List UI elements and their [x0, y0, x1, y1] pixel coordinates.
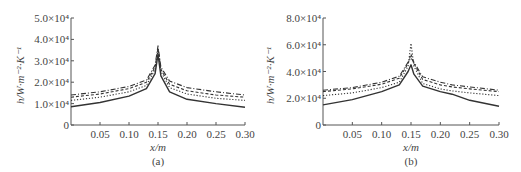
x-tick-label: 0.20 — [177, 128, 197, 140]
x-tick-label: 0.25 — [460, 128, 480, 140]
x-tick-label: 0.10 — [119, 128, 139, 140]
x-axis-label: x/m — [402, 141, 419, 153]
y-tick-label: 2.0×10⁴ — [34, 76, 69, 88]
x-tick-label: 0.15 — [148, 128, 168, 140]
x-tick-label: 0.05 — [90, 128, 110, 140]
x-axis-label: x/m — [149, 141, 166, 153]
x-tick-label: 0.30 — [489, 128, 509, 140]
y-tick-label: 3.0×10⁴ — [34, 55, 69, 67]
series-line-solid — [71, 54, 245, 107]
y-tick-label: 6.0×10⁴ — [286, 39, 321, 51]
x-tick-label: 0.05 — [343, 128, 363, 140]
x-tick-label: 0.15 — [401, 128, 421, 140]
chart-panel-a: 01.0×10⁴2.0×10⁴3.0×10⁴4.0×10⁴5.0×10⁴0.05… — [0, 0, 260, 172]
y-tick-label: 1.0×10⁴ — [34, 98, 69, 110]
series-line-solid — [323, 65, 499, 107]
series-line-dashed — [323, 54, 499, 92]
y-axis-label: h/W·m⁻²·K⁻¹ — [14, 47, 26, 104]
x-tick-label: 0.25 — [206, 128, 226, 140]
line-chart-a: 01.0×10⁴2.0×10⁴3.0×10⁴4.0×10⁴5.0×10⁴0.05… — [0, 0, 260, 172]
series-line-dash-dot — [323, 58, 499, 90]
y-tick-label: 5.0×10⁴ — [34, 12, 69, 24]
line-chart-b: 02.0×10⁴4.0×10⁴6.0×10⁴8.0×10⁴0.050.100.1… — [260, 0, 521, 172]
x-tick-label: 0.20 — [431, 128, 451, 140]
y-axis-label: h/W·m⁻²·K⁻¹ — [264, 47, 276, 104]
y-tick-label: 4.0×10⁴ — [34, 33, 69, 45]
x-tick-label: 0.10 — [372, 128, 392, 140]
y-tick-label: 0 — [64, 119, 70, 131]
y-tick-label: 0 — [316, 119, 322, 131]
chart-panel-b: 02.0×10⁴4.0×10⁴6.0×10⁴8.0×10⁴0.050.100.1… — [260, 0, 521, 172]
y-tick-label: 8.0×10⁴ — [286, 12, 321, 24]
panel-caption: (b) — [405, 155, 418, 168]
panel-caption: (a) — [152, 155, 165, 168]
x-tick-label: 0.30 — [235, 128, 255, 140]
y-tick-label: 4.0×10⁴ — [286, 66, 321, 78]
y-tick-label: 2.0×10⁴ — [286, 92, 321, 104]
